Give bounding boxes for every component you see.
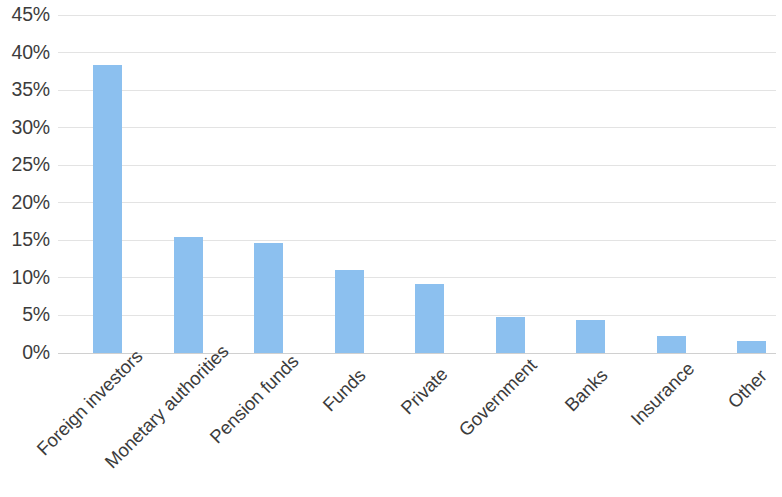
bar — [335, 270, 364, 353]
bar — [93, 65, 122, 353]
bar — [174, 237, 203, 353]
bar — [415, 284, 444, 353]
bar — [254, 243, 283, 353]
bar — [496, 317, 525, 353]
bar-chart: 0%5%10%15%20%25%30%35%40%45% Foreign inv… — [0, 0, 782, 497]
bar — [737, 341, 766, 353]
plot-area — [0, 0, 782, 497]
bar — [657, 336, 686, 353]
bar — [576, 320, 605, 353]
